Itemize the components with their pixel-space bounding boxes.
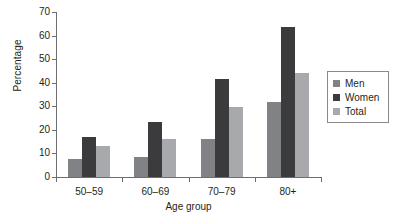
legend-swatch-icon <box>333 108 340 115</box>
legend-swatch-icon <box>333 94 340 101</box>
y-tick-label: 70 <box>10 7 50 17</box>
legend: MenWomenTotal <box>327 71 389 123</box>
bar-men-0 <box>68 159 82 177</box>
bar-chart: Percentage 010203040506070 50–5960–6970–… <box>0 0 403 224</box>
bar-women-2 <box>215 79 229 177</box>
legend-label: Men <box>345 78 364 89</box>
y-tick-label: 30 <box>10 101 50 111</box>
plot-area <box>56 12 321 177</box>
x-tick <box>56 177 57 182</box>
y-tick-label: 60 <box>10 31 50 41</box>
bar-total-3 <box>295 73 309 177</box>
y-tick-label: 40 <box>10 78 50 88</box>
x-tick <box>189 177 190 182</box>
bar-total-0 <box>96 146 110 177</box>
x-tick-label: 60–69 <box>120 186 190 197</box>
x-tick <box>255 177 256 182</box>
bar-women-3 <box>281 27 295 177</box>
legend-label: Women <box>345 92 379 103</box>
bar-men-1 <box>134 157 148 177</box>
bar-men-3 <box>267 102 281 177</box>
legend-item-women[interactable]: Women <box>333 90 384 104</box>
bar-women-1 <box>148 122 162 177</box>
x-tick <box>321 177 322 182</box>
y-tick-label: 10 <box>10 148 50 158</box>
legend-swatch-icon <box>333 80 340 87</box>
x-tick <box>122 177 123 182</box>
bar-total-2 <box>229 107 243 177</box>
legend-item-men[interactable]: Men <box>333 76 384 90</box>
legend-label: Total <box>345 106 366 117</box>
y-tick-label: 20 <box>10 125 50 135</box>
x-tick-label: 80+ <box>253 186 323 197</box>
x-tick-label: 70–79 <box>187 186 257 197</box>
bar-women-0 <box>82 137 96 177</box>
bar-total-1 <box>162 139 176 177</box>
x-axis-title: Age group <box>56 201 321 212</box>
y-tick-label: 0 <box>10 172 50 182</box>
y-tick-label: 50 <box>10 54 50 64</box>
legend-item-total[interactable]: Total <box>333 104 384 118</box>
x-tick-label: 50–59 <box>54 186 124 197</box>
bar-men-2 <box>201 139 215 177</box>
